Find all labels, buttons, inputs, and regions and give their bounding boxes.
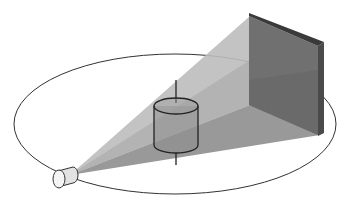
x-ray-source [53, 167, 78, 188]
detector-side-edge [318, 42, 324, 136]
diagram-svg [0, 0, 348, 209]
ct-geometry-diagram [0, 0, 348, 209]
